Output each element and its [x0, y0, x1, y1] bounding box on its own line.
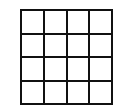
grid-cell [45, 82, 68, 106]
grid-cell [68, 11, 91, 35]
grid-cell [22, 35, 45, 59]
grid-cell [45, 35, 68, 59]
grid-cell [22, 82, 45, 106]
grid-cell [90, 11, 113, 35]
four-by-four-grid [20, 9, 113, 105]
grid-cell [68, 35, 91, 59]
grid-cell [90, 58, 113, 82]
grid-cell [22, 11, 45, 35]
grid-cell [68, 58, 91, 82]
grid-cell [45, 58, 68, 82]
diagram-canvas [0, 0, 118, 107]
grid-cell [45, 11, 68, 35]
grid-cell [90, 35, 113, 59]
grid-cell [68, 82, 91, 106]
grid-cell [90, 82, 113, 106]
grid-cell [22, 58, 45, 82]
